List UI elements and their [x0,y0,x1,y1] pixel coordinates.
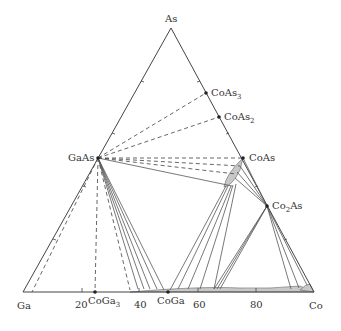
phase-label-coas3: CoAs3 [211,87,242,101]
phase-label-coas2: CoAs2 [224,111,255,125]
tick-label-60: 60 [193,299,206,310]
corner-label-as: As [164,13,177,24]
corner-label-ga: Ga [17,300,31,311]
gaas-point [96,156,100,160]
coas3-point [204,91,208,95]
tick-label-40: 40 [134,299,147,310]
coga3-point [93,290,97,294]
solid-tie-lines [98,158,307,290]
coga-point [166,290,170,294]
corner-label-co: Co [309,300,323,311]
phase-label-coga: CoGa [157,295,185,306]
coas-point [241,156,245,160]
phase-label-gaas: GaAs [68,152,94,163]
coas2-point [217,115,221,119]
tick-label-20: 20 [75,299,88,310]
ternary-diagram: As Ga Co GaAs CoAs CoAs3 CoAs2 Co2As CoG… [0,0,341,331]
tick-label-80: 80 [250,299,263,310]
phase-label-co2as: Co2As [272,200,303,214]
phase-label-coas: CoAs [249,152,275,163]
dashed-tie-lines [32,93,243,292]
edge-ticks [53,81,287,292]
phase-label-coga3: CoGa3 [88,295,120,309]
solid-solution-band [130,286,314,292]
co2as-point [265,204,269,208]
